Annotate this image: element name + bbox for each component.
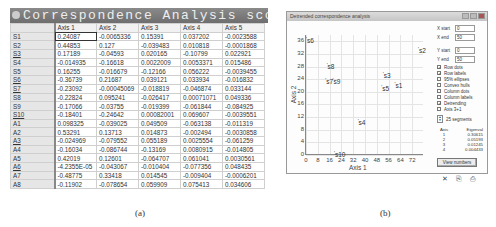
table-cell[interactable]: -4.2355E-05 bbox=[55, 163, 97, 172]
maximize-button[interactable] bbox=[470, 13, 477, 19]
x-end-input[interactable]: 50 bbox=[455, 34, 475, 41]
table-cell[interactable]: -0.0030858 bbox=[223, 128, 265, 137]
table-cell[interactable]: 0.034606 bbox=[223, 180, 265, 189]
segments-spinner[interactable]: ▲▼ bbox=[437, 115, 443, 123]
table-cell[interactable]: 0.13713 bbox=[97, 128, 139, 137]
table-cell[interactable]: 0.056222 bbox=[181, 67, 223, 76]
checkbox[interactable] bbox=[437, 71, 441, 75]
row-header[interactable]: S2 bbox=[11, 41, 55, 50]
close-button[interactable] bbox=[478, 13, 485, 19]
table-cell[interactable]: -0.016679 bbox=[97, 67, 139, 76]
table-cell[interactable]: -0.086744 bbox=[97, 145, 139, 154]
table-cell[interactable]: -0.063138 bbox=[181, 119, 223, 128]
table-cell[interactable]: 0.0025554 bbox=[181, 136, 223, 145]
table-cell[interactable]: -0.36739 bbox=[55, 76, 97, 85]
row-header[interactable]: A6 bbox=[11, 163, 55, 172]
table-cell[interactable]: -0.084925 bbox=[223, 102, 265, 111]
table-cell[interactable]: 0.24087 bbox=[55, 32, 97, 41]
table-cell[interactable]: 0.42019 bbox=[55, 154, 97, 163]
table-cell[interactable]: -0.24642 bbox=[97, 110, 139, 119]
table-cell[interactable]: 0.020165 bbox=[139, 50, 181, 59]
row-header[interactable]: S9 bbox=[11, 102, 55, 111]
row-header[interactable]: S10 bbox=[11, 110, 55, 119]
minimize-button[interactable] bbox=[462, 13, 469, 19]
close-x-icon[interactable]: ✕ bbox=[441, 175, 449, 183]
table-cell[interactable]: -0.010404 bbox=[139, 163, 181, 172]
table-cell[interactable]: -0.17066 bbox=[55, 102, 97, 111]
table-cell[interactable]: 0.022921 bbox=[223, 50, 265, 59]
row-header[interactable]: S7 bbox=[11, 84, 55, 93]
table-cell[interactable]: -0.009404 bbox=[181, 171, 223, 180]
table-cell[interactable]: -0.10799 bbox=[181, 50, 223, 59]
row-header[interactable]: A5 bbox=[11, 154, 55, 163]
table-cell[interactable]: 0.049509 bbox=[139, 119, 181, 128]
data-point[interactable]: s2 bbox=[418, 47, 426, 54]
table-cell[interactable]: 0.53291 bbox=[55, 128, 97, 137]
table-cell[interactable]: -0.0039551 bbox=[223, 110, 265, 119]
row-header[interactable]: A7 bbox=[11, 171, 55, 180]
table-cell[interactable]: -0.22824 bbox=[55, 93, 97, 102]
checkbox[interactable] bbox=[437, 107, 441, 111]
table-cell[interactable]: 0.095241 bbox=[97, 93, 139, 102]
table-cell[interactable]: 0.00071071 bbox=[181, 93, 223, 102]
table-cell[interactable]: -0.078654 bbox=[97, 180, 139, 189]
table-cell[interactable]: -0.03755 bbox=[97, 102, 139, 111]
table-cell[interactable]: -0.0023588 bbox=[223, 32, 265, 41]
table-cell[interactable]: -0.019399 bbox=[139, 102, 181, 111]
table-cell[interactable]: -0.016832 bbox=[223, 76, 265, 85]
checkbox[interactable] bbox=[437, 83, 441, 87]
table-cell[interactable]: -0.13169 bbox=[139, 145, 181, 154]
table-cell[interactable]: 0.0080915 bbox=[181, 145, 223, 154]
table-cell[interactable]: 0.014873 bbox=[139, 128, 181, 137]
row-header[interactable]: S5 bbox=[11, 67, 55, 76]
row-header[interactable]: S6 bbox=[11, 76, 55, 85]
data-point[interactable]: s5 bbox=[381, 85, 389, 92]
col-header-axis-2[interactable]: Axis 2 bbox=[97, 24, 139, 33]
table-cell[interactable]: 0.16255 bbox=[55, 67, 97, 76]
table-cell[interactable]: -0.0006201 bbox=[223, 171, 265, 180]
table-cell[interactable]: -0.48775 bbox=[55, 171, 97, 180]
row-header[interactable]: A3 bbox=[11, 136, 55, 145]
table-cell[interactable]: -0.018819 bbox=[139, 84, 181, 93]
row-header[interactable]: S3 bbox=[11, 50, 55, 59]
table-cell[interactable]: 0.048435 bbox=[223, 163, 265, 172]
table-cell[interactable]: 0.014545 bbox=[139, 171, 181, 180]
data-point[interactable]: s9 bbox=[333, 78, 341, 85]
col-header-axis-3[interactable]: Axis 3 bbox=[139, 24, 181, 33]
table-cell[interactable]: 0.059909 bbox=[139, 180, 181, 189]
table-cell[interactable]: -0.043067 bbox=[97, 163, 139, 172]
table-cell[interactable]: 0.055189 bbox=[139, 136, 181, 145]
copy-icon[interactable]: ⎘ bbox=[455, 175, 463, 183]
table-cell[interactable]: -0.039025 bbox=[97, 119, 139, 128]
x-start-input[interactable]: 0 bbox=[455, 25, 475, 32]
row-header[interactable]: S1 bbox=[11, 32, 55, 41]
table-cell[interactable]: -0.00045069 bbox=[97, 84, 139, 93]
checkbox[interactable] bbox=[437, 77, 441, 81]
table-cell[interactable]: -0.11902 bbox=[55, 180, 97, 189]
table-cell[interactable]: 0.039121 bbox=[139, 76, 181, 85]
table-cell[interactable]: 0.44853 bbox=[55, 41, 97, 50]
table-cell[interactable]: -0.077356 bbox=[181, 163, 223, 172]
col-header-axis-1[interactable]: Axis 1 bbox=[55, 24, 97, 33]
table-cell[interactable]: -0.011319 bbox=[223, 119, 265, 128]
table-cell[interactable]: 0.069607 bbox=[181, 110, 223, 119]
data-point[interactable]: s6 bbox=[306, 37, 314, 44]
table-cell[interactable]: 0.033934 bbox=[181, 76, 223, 85]
row-header[interactable]: A8 bbox=[11, 180, 55, 189]
table-cell[interactable]: -0.16034 bbox=[55, 145, 97, 154]
col-header-axis-4[interactable]: Axis 4 bbox=[181, 24, 223, 33]
table-cell[interactable]: -0.039483 bbox=[139, 41, 181, 50]
table-cell[interactable]: 0.0030561 bbox=[223, 154, 265, 163]
table-cell[interactable]: -0.12166 bbox=[139, 67, 181, 76]
data-point[interactable]: s10 bbox=[334, 151, 345, 158]
table-cell[interactable]: 0.15391 bbox=[139, 32, 181, 41]
data-point[interactable]: s4 bbox=[358, 119, 366, 126]
table-cell[interactable]: 0.17189 bbox=[55, 50, 97, 59]
table-cell[interactable]: -0.024969 bbox=[55, 136, 97, 145]
checkbox[interactable] bbox=[437, 65, 441, 69]
table-cell[interactable]: 0.098325 bbox=[55, 119, 97, 128]
checkbox[interactable] bbox=[437, 95, 441, 99]
row-header[interactable]: S4 bbox=[11, 58, 55, 67]
table-cell[interactable]: 0.127 bbox=[97, 41, 139, 50]
table-cell[interactable]: 0.010818 bbox=[181, 41, 223, 50]
